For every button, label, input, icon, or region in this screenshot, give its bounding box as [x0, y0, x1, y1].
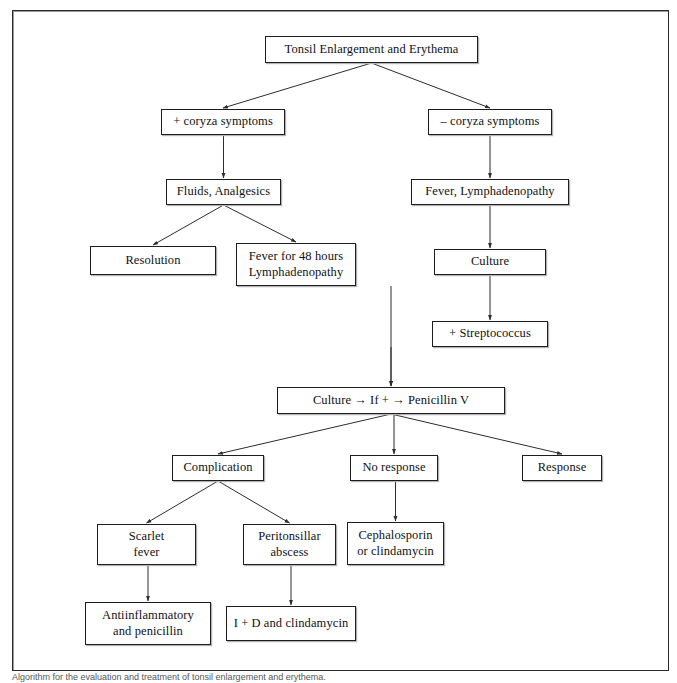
node-label: Scarlet fever [129, 529, 164, 560]
node-label: Resolution [125, 253, 180, 268]
node-fluids: Fluids, Analgesics [166, 179, 281, 205]
node-label: Culture [471, 254, 509, 269]
node-label: Complication [183, 460, 252, 475]
node-culture_right: Culture [434, 249, 546, 275]
node-fever_lymph: Fever, Lymphadenopathy [411, 179, 569, 205]
node-fever48: Fever for 48 hours Lymphadenopathy [236, 243, 356, 286]
node-cephalosporin: Cephalosporin or clindamycin [347, 522, 444, 565]
edge-fluids-to-resolution [153, 205, 224, 245]
node-root: Tonsil Enlargement and Erythema [265, 36, 478, 63]
connector-layer [0, 0, 677, 683]
node-label: Fever for 48 hours Lymphadenopathy [249, 249, 344, 280]
figure-caption: Algorithm for the evaluation and treatme… [12, 672, 552, 683]
edge-root-to-coryza_pos [223, 63, 372, 108]
edge-complication-to-peritonsillar [218, 481, 290, 523]
node-response: Response [522, 455, 602, 481]
node-label: Cephalosporin or clindamycin [357, 528, 434, 559]
node-antiinflam: Antiinflammatory and penicillin [85, 602, 211, 645]
node-coryza_pos: + coryza symptoms [161, 109, 285, 135]
node-label: Response [538, 460, 587, 475]
node-incision: I + D and clindamycin [226, 606, 356, 641]
node-peritonsillar: Peritonsillar abscess [243, 524, 336, 565]
node-label: Fluids, Analgesics [177, 184, 270, 199]
figure-page: Tonsil Enlargement and Erythema+ coryza … [0, 0, 677, 683]
node-label: + Streptococcus [449, 326, 531, 341]
node-label: Antiinflammatory and penicillin [102, 608, 194, 639]
edge-root-to-coryza_neg [372, 63, 491, 108]
edge-complication-to-scarlet [147, 481, 219, 523]
edge-fluids-to-fever48 [224, 205, 297, 242]
node-complication: Complication [172, 455, 264, 481]
node-label: + coryza symptoms [173, 114, 273, 129]
edge-culture_pen-to-response [391, 414, 562, 454]
node-label: Fever, Lymphadenopathy [425, 184, 554, 199]
node-label: I + D and clindamycin [234, 616, 349, 631]
node-no_response: No response [350, 455, 438, 481]
node-label: Peritonsillar abscess [258, 529, 320, 560]
node-label: – coryza symptoms [441, 114, 540, 129]
node-strep_pos: + Streptococcus [432, 321, 548, 347]
node-scarlet: Scarlet fever [97, 524, 196, 565]
edge-culture_pen-to-complication [218, 414, 391, 454]
node-label: Tonsil Enlargement and Erythema [285, 42, 459, 57]
node-coryza_neg: – coryza symptoms [428, 109, 552, 135]
node-label: No response [362, 460, 425, 475]
node-culture_pen: Culture → If + → Penicillin V [277, 387, 505, 414]
node-label: Culture → If + → Penicillin V [313, 393, 469, 408]
node-resolution: Resolution [90, 246, 216, 275]
